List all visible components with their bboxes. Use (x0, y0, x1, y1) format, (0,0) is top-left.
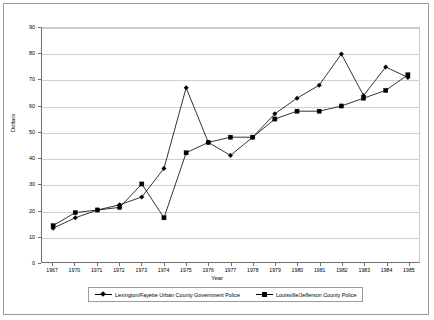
series-line-1 (53, 54, 408, 228)
legend-entry-2[interactable]: Louisville/Jefferson County Police (256, 291, 357, 298)
data-point-marker (317, 109, 321, 113)
chart-frame: Dollars Year 0102030405060708090 1967197… (3, 3, 429, 315)
y-axis-tick-label: 30 (13, 181, 35, 187)
legend-label: Lexington/Fayette Urban County Governmen… (115, 292, 240, 298)
legend-label: Louisville/Jefferson County Police (276, 292, 357, 298)
y-axis-tick-label: 10 (13, 234, 35, 240)
x-axis-tick-mark (208, 263, 209, 266)
data-point-marker (95, 208, 99, 212)
data-point-marker (118, 205, 122, 209)
data-point-marker (73, 211, 77, 215)
data-point-marker (51, 224, 55, 228)
data-point-marker (184, 151, 188, 155)
x-axis-tick-mark (164, 263, 165, 266)
x-axis-tick-mark (141, 263, 142, 266)
y-axis-tick-mark (38, 263, 41, 264)
x-axis-tick-mark (74, 263, 75, 266)
chart-legend: Lexington/Fayette Urban County Governmen… (88, 287, 363, 302)
y-axis-tick-label: 70 (13, 76, 35, 82)
data-point-marker (361, 96, 365, 100)
y-axis-tick-label: 60 (13, 103, 35, 109)
x-axis-tick-mark (231, 263, 232, 266)
x-axis-tick-mark (52, 263, 53, 266)
square-marker-icon (256, 291, 273, 298)
series-layer (42, 28, 419, 262)
data-point-marker (206, 140, 210, 144)
y-axis-tick-label: 80 (13, 50, 35, 56)
data-point-marker (406, 73, 410, 77)
data-point-marker (184, 86, 189, 91)
x-axis-tick-mark (97, 263, 98, 266)
x-axis-tick-mark (297, 263, 298, 266)
data-point-marker (339, 104, 343, 108)
x-axis-tick-mark (387, 263, 388, 266)
x-axis-tick-mark (320, 263, 321, 266)
data-point-marker (73, 216, 78, 221)
plot-area (41, 27, 420, 263)
data-point-marker (162, 216, 166, 220)
y-axis-tick-label: 90 (13, 24, 35, 30)
diamond-marker-icon (95, 291, 112, 298)
x-axis-tick-mark (186, 263, 187, 266)
x-axis-tick-label: 1985 (394, 267, 424, 273)
data-point-marker (228, 135, 232, 139)
data-point-marker (273, 117, 277, 121)
data-point-marker (384, 88, 388, 92)
y-axis-tick-label: 0 (13, 260, 35, 266)
x-axis-title: Year (4, 275, 430, 281)
x-axis-tick-mark (364, 263, 365, 266)
y-axis-tick-label: 20 (13, 208, 35, 214)
y-axis-tick-label: 40 (13, 155, 35, 161)
x-axis-tick-mark (119, 263, 120, 266)
series-line-2 (53, 75, 408, 226)
data-point-marker (251, 135, 255, 139)
x-axis-tick-mark (409, 263, 410, 266)
x-axis-tick-mark (253, 263, 254, 266)
data-point-marker (295, 109, 299, 113)
x-axis-tick-mark (342, 263, 343, 266)
x-axis-tick-mark (275, 263, 276, 266)
y-axis-tick-label: 50 (13, 129, 35, 135)
data-point-marker (140, 182, 144, 186)
legend-entry-1[interactable]: Lexington/Fayette Urban County Governmen… (95, 291, 240, 298)
